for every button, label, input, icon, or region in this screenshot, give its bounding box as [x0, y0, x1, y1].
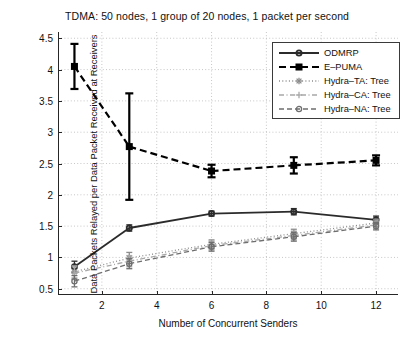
y-tick-mark [58, 257, 62, 258]
series-line-segment [212, 234, 294, 245]
legend-line-sample [277, 74, 321, 88]
x-tick-mark [157, 291, 158, 295]
y-tick-label: 4 [47, 64, 53, 75]
series-line-segment [212, 237, 294, 247]
x-tick-mark [102, 291, 103, 295]
chart-title: TDMA: 50 nodes, 1 group of 20 nodes, 1 p… [0, 10, 414, 22]
series-hydra-ta-tree [71, 219, 379, 278]
data-point-marker-square [127, 144, 132, 149]
data-point-marker-square [209, 169, 214, 174]
legend: ODMRPE–PUMAHydra–TA: TreeHydra–CA: TreeH… [272, 42, 400, 119]
series-line-segment [129, 147, 211, 171]
series-line-segment [294, 225, 376, 236]
series-line-segment [294, 226, 376, 237]
x-tick-label: 6 [209, 300, 215, 311]
legend-line-sample [277, 102, 321, 116]
y-tick-mark [58, 38, 62, 39]
legend-label: ODMRP [324, 48, 359, 58]
y-tick-label: 1.5 [39, 221, 53, 232]
series-odmrp [71, 209, 379, 273]
legend-item-odmrp[interactable]: ODMRP [277, 46, 395, 60]
legend-line-sample [277, 88, 321, 102]
data-point-marker-plus [296, 92, 302, 98]
x-tick-mark [321, 291, 322, 295]
y-tick-label: 2 [47, 189, 53, 200]
data-point-marker-square [72, 64, 77, 69]
y-tick-mark [58, 132, 62, 133]
series-line-segment [212, 212, 294, 214]
legend-label: E–PUMA [324, 62, 362, 72]
series-line-segment [212, 165, 294, 171]
series-line-segment [129, 214, 211, 228]
series-line-segment [294, 212, 376, 220]
data-point-marker-star [296, 78, 302, 84]
x-tick-mark [266, 291, 267, 295]
y-tick-label: 3.5 [39, 95, 53, 106]
x-tick-mark [212, 291, 213, 295]
x-tick-label: 2 [99, 300, 105, 311]
legend-label: Hydra–CA: Tree [324, 90, 391, 100]
legend-swatch-plus-icon [277, 88, 321, 102]
legend-item-hydra-na-tree[interactable]: Hydra–NA: Tree [277, 102, 395, 116]
legend-line-sample [277, 46, 321, 60]
series-line-segment [294, 160, 376, 165]
y-tick-mark [58, 195, 62, 196]
series-hydra-na-tree [71, 222, 379, 286]
legend-label: Hydra–TA: Tree [324, 76, 389, 86]
legend-item-hydra-ta-tree[interactable]: Hydra–TA: Tree [277, 74, 395, 88]
series-line-segment [129, 247, 211, 264]
y-tick-mark [58, 289, 62, 290]
legend-item-e-puma[interactable]: E–PUMA [277, 60, 395, 74]
y-tick-label: 4.5 [39, 33, 53, 44]
y-tick-label: 1 [47, 252, 53, 263]
legend-item-hydra-ca-tree[interactable]: Hydra–CA: Tree [277, 88, 395, 102]
series-line-segment [129, 246, 211, 262]
series-line-segment [74, 228, 129, 267]
y-tick-mark [58, 101, 62, 102]
series-hydra-ca-tree [71, 221, 379, 279]
legend-swatch-star-icon [277, 74, 321, 88]
x-tick-mark [376, 291, 377, 295]
y-tick-mark [58, 164, 62, 165]
legend-swatch-circle-icon [277, 46, 321, 60]
x-axis-label: Number of Concurrent Senders [58, 318, 398, 329]
series-line-segment [74, 66, 129, 146]
x-tick-label: 8 [264, 300, 270, 311]
legend-label: Hydra–NA: Tree [324, 104, 391, 114]
y-tick-label: 2.5 [39, 158, 53, 169]
legend-swatch-square-icon [277, 60, 321, 74]
y-tick-mark [58, 226, 62, 227]
data-point-marker-square [374, 158, 379, 163]
legend-line-sample [277, 60, 321, 74]
x-tick-label: 12 [371, 300, 382, 311]
y-tick-label: 3 [47, 127, 53, 138]
x-tick-label: 10 [316, 300, 327, 311]
data-point-marker-square [297, 65, 302, 70]
legend-swatch-circle-icon [277, 102, 321, 116]
data-point-marker-square [291, 163, 296, 168]
y-tick-label: 0.5 [39, 283, 53, 294]
x-tick-label: 4 [154, 300, 160, 311]
series-line-segment [74, 261, 129, 273]
series-line-segment [74, 264, 129, 282]
chart-figure: TDMA: 50 nodes, 1 group of 20 nodes, 1 p… [0, 0, 414, 343]
series-line-segment [212, 236, 294, 246]
series-line-segment [129, 244, 211, 258]
y-tick-mark [58, 70, 62, 71]
